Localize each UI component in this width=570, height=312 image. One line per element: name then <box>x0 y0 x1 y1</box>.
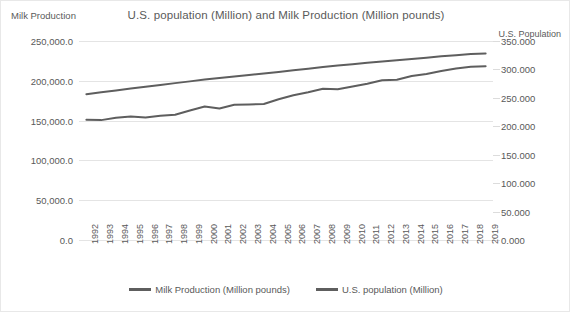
x-axis-tick-label: 2018 <box>475 224 485 244</box>
legend-swatch-icon <box>316 288 338 291</box>
plot-area <box>79 41 493 240</box>
x-axis-tick-label: 2002 <box>238 224 248 244</box>
x-axis-tick-label: 2012 <box>386 224 396 244</box>
x-axis-tick-label: 1995 <box>135 224 145 244</box>
x-axis-tick-label: 2008 <box>327 224 337 244</box>
y-axis-right-tick-label: 50.000 <box>501 206 565 217</box>
legend-label: Milk Production (Million pounds) <box>155 284 290 295</box>
x-axis-tick-label: 2006 <box>297 224 307 244</box>
x-axis-tick-label: 1998 <box>179 224 189 244</box>
y-axis-right-tick <box>493 155 500 156</box>
x-axis-tick-label: 2005 <box>283 224 293 244</box>
x-axis-tick-label: 2017 <box>460 224 470 244</box>
x-axis-tick-label: 2010 <box>357 224 367 244</box>
x-axis-tick-label: 1997 <box>164 224 174 244</box>
x-axis-tick-label: 2007 <box>312 224 322 244</box>
legend-swatch-icon <box>129 288 151 291</box>
x-axis-tick-label: 2016 <box>445 224 455 244</box>
y-axis-right-tick-label: 350.000 <box>501 36 565 47</box>
y-axis-left-tick-label: 100,000.0 <box>7 155 73 166</box>
y-axis-right-tick-label: 200.000 <box>501 121 565 132</box>
y-axis-left-tick-label: 50,000.0 <box>7 195 73 206</box>
y-axis-right-tick <box>493 126 500 127</box>
x-axis-tick-label: 2019 <box>490 224 500 244</box>
x-axis-tick-label: 1996 <box>150 224 160 244</box>
x-axis-tick-label: 2000 <box>209 224 219 244</box>
x-axis-tick-label: 1999 <box>194 224 204 244</box>
series-lines <box>79 41 493 240</box>
legend-item[interactable]: Milk Production (Million pounds) <box>129 284 290 295</box>
y-axis-right-tick <box>493 212 500 213</box>
y-axis-left-tick-label: 0.0 <box>7 235 73 246</box>
chart-legend: Milk Production (Million pounds)U.S. pop… <box>1 284 570 295</box>
y-axis-right-tick-label: 100.000 <box>501 178 565 189</box>
y-axis-right-tick <box>493 183 500 184</box>
legend-item[interactable]: U.S. population (Million) <box>316 284 443 295</box>
left-axis-title: Milk Production <box>11 10 76 21</box>
x-axis-tick-label: 1992 <box>90 224 100 244</box>
x-axis-tick-label: 1993 <box>105 224 115 244</box>
series-line <box>86 66 485 120</box>
x-axis-tick-label: 2015 <box>430 224 440 244</box>
x-axis-tick-label: 2013 <box>401 224 411 244</box>
y-axis-left-tick-label: 200,000.0 <box>7 75 73 86</box>
chart-container: U.S. population (Million) and Milk Produ… <box>0 0 570 312</box>
x-axis-tick-label: 2011 <box>371 225 381 244</box>
x-axis-tick-label: 2004 <box>268 224 278 244</box>
y-axis-left-tick-label: 250,000.0 <box>7 36 73 47</box>
y-axis-left-tick-label: 150,000.0 <box>7 115 73 126</box>
chart-title: U.S. population (Million) and Milk Produ… <box>1 9 570 21</box>
legend-label: U.S. population (Million) <box>342 284 443 295</box>
x-axis-tick-label: 2014 <box>416 224 426 244</box>
y-axis-right-tick-label: 250.000 <box>501 92 565 103</box>
y-axis-right-tick-label: 150.000 <box>501 149 565 160</box>
y-axis-right-tick <box>493 98 500 99</box>
x-axis-tick-label: 2001 <box>223 224 233 244</box>
y-axis-right-tick <box>493 41 500 42</box>
x-axis-tick-label: 2009 <box>342 224 352 244</box>
x-axis-tick-label: 2003 <box>253 224 263 244</box>
x-axis-tick-label: 1994 <box>120 224 130 244</box>
y-axis-right-tick-label: 0.000 <box>501 235 565 246</box>
y-axis-right-tick <box>493 69 500 70</box>
y-axis-right-tick-label: 300.000 <box>501 64 565 75</box>
